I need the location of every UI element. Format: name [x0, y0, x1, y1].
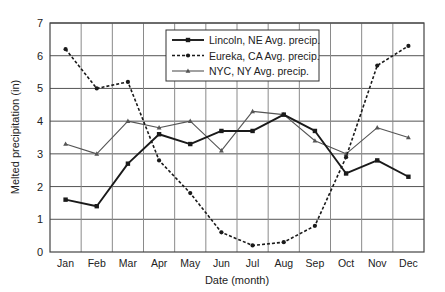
y-tick-label: 4 [37, 115, 43, 127]
triangle-marker-icon [63, 141, 68, 145]
y-tick-label: 5 [37, 82, 43, 94]
circle-marker-icon [95, 86, 99, 90]
x-tick-label: Nov [368, 257, 387, 269]
circle-marker-icon [344, 155, 348, 159]
y-tick-label: 3 [37, 148, 43, 160]
y-tick-labels: 01234567 [37, 17, 43, 258]
y-tick-label: 6 [37, 50, 43, 62]
triangle-marker-icon [250, 109, 255, 113]
square-marker-icon [282, 112, 286, 116]
precipitation-line-chart: 01234567 JanFebMarAprMayJunJulAugSepOctN… [0, 0, 445, 292]
x-tick-label: May [180, 257, 201, 269]
x-tick-label: Apr [151, 257, 168, 269]
circle-marker-icon [186, 53, 190, 57]
square-marker-icon [126, 161, 130, 165]
square-marker-icon [186, 38, 190, 42]
x-tick-label: Jul [246, 257, 259, 269]
square-marker-icon [344, 171, 348, 175]
circle-marker-icon [406, 44, 410, 48]
square-marker-icon [188, 142, 192, 146]
legend-label: NYC, NY Avg. precip. [209, 65, 309, 77]
x-tick-label: Sep [306, 257, 325, 269]
square-marker-icon [219, 129, 223, 133]
x-tick-label: Dec [399, 257, 418, 269]
circle-marker-icon [126, 80, 130, 84]
x-tick-label: Oct [338, 257, 354, 269]
circle-marker-icon [188, 191, 192, 195]
legend-label: Eureka, CA Avg. precip. [209, 50, 320, 62]
triangle-marker-icon [375, 125, 380, 129]
x-axis-label: Date (month) [205, 274, 269, 286]
y-tick-label: 0 [37, 246, 43, 258]
square-marker-icon [157, 132, 161, 136]
legend-label: Lincoln, NE Avg. precip. [209, 34, 320, 46]
x-tick-label: Jan [57, 257, 74, 269]
x-tick-label: Mar [119, 257, 138, 269]
circle-marker-icon [219, 230, 223, 234]
legend: Lincoln, NE Avg. precip.Eureka, CA Avg. … [166, 30, 320, 81]
circle-marker-icon [282, 240, 286, 244]
y-tick-label: 2 [37, 181, 43, 193]
x-tick-label: Aug [274, 257, 293, 269]
y-axis-label: Melted precipitation (in) [9, 80, 21, 194]
circle-marker-icon [375, 63, 379, 67]
square-marker-icon [250, 129, 254, 133]
x-tick-label: Feb [88, 257, 106, 269]
square-marker-icon [406, 175, 410, 179]
y-tick-label: 1 [37, 213, 43, 225]
circle-marker-icon [313, 224, 317, 228]
y-tick-label: 7 [37, 17, 43, 29]
circle-marker-icon [157, 158, 161, 162]
x-tick-label: Jun [213, 257, 230, 269]
x-tick-labels: JanFebMarAprMayJunJulAugSepOctNovDec [57, 257, 418, 269]
circle-marker-icon [250, 243, 254, 247]
square-marker-icon [95, 204, 99, 208]
square-marker-icon [313, 129, 317, 133]
square-marker-icon [375, 158, 379, 162]
circle-marker-icon [63, 47, 67, 51]
square-marker-icon [63, 197, 67, 201]
